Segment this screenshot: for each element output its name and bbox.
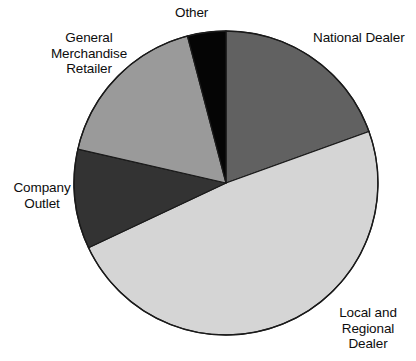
slice-label-national-dealer: National Dealer [313, 30, 405, 46]
pie-slice-group [74, 31, 378, 335]
slice-label-company-outlet: Company Outlet [6, 180, 78, 211]
slice-label-local-and-regional-dealer: Local and Regional Dealer [322, 305, 414, 352]
slice-label-general-merchandise-retailer: General Merchandise Retailer [46, 30, 132, 77]
pie-chart-figure: Other National Dealer General Merchandis… [0, 0, 416, 361]
slice-label-other: Other [175, 5, 208, 21]
